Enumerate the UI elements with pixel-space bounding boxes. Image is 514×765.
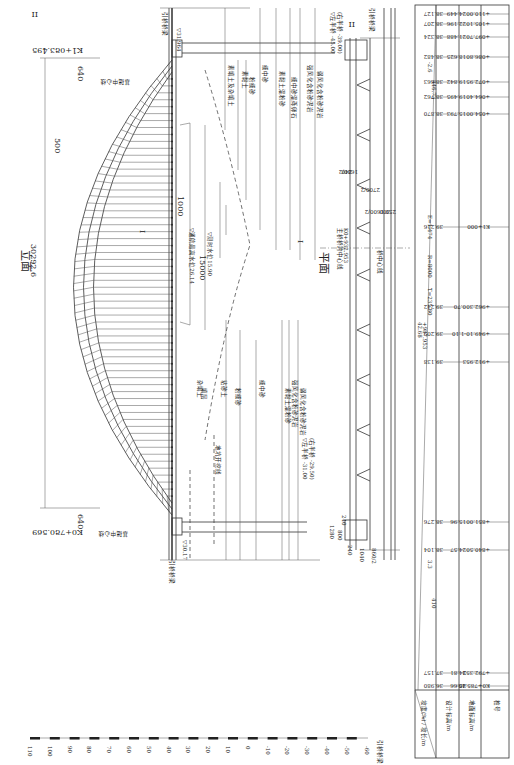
station-value: +072.95 xyxy=(466,79,490,85)
hanger-anchor xyxy=(171,279,173,281)
truss-diagonal xyxy=(112,144,126,148)
plan-section-mark-top: II xyxy=(349,20,355,29)
design-elevation: 38.482 xyxy=(424,54,443,60)
truss-diagonal xyxy=(162,489,163,504)
soil-label: 弱风化含粉砂泥岩 xyxy=(316,71,324,119)
bridge-drawing: 立面 30292.6 500 II K1+083.495 K0+780.569 … xyxy=(0,0,514,765)
soil-label: 粉细砂 xyxy=(234,388,242,406)
grade-left-length: 410 xyxy=(431,598,437,609)
scale-tick: -40 xyxy=(324,746,330,755)
scale-tick: 50 xyxy=(146,746,152,753)
design-elevation: 38.127 xyxy=(423,11,443,17)
plan-dimension: 800 xyxy=(337,530,343,541)
hanger-anchor xyxy=(171,328,173,330)
design-elevation: 38.207 xyxy=(423,21,443,27)
grade-right-length: 446.73 xyxy=(431,80,437,100)
station-value: +962.30 xyxy=(466,304,490,310)
truss-diagonal xyxy=(98,392,112,401)
hanger-anchor xyxy=(171,419,173,421)
station-value: +064.40 xyxy=(466,94,490,100)
hanger-anchor xyxy=(171,265,173,267)
hanger-anchor xyxy=(171,210,173,212)
rib-spacing-label: 500 xyxy=(53,138,62,153)
design-elevation: 37.157 xyxy=(423,670,443,676)
hanger-anchor xyxy=(171,113,173,115)
station-left: K0+780.569 xyxy=(32,528,83,537)
soil-label: 粘砂土 xyxy=(220,380,228,398)
station-right: K1+083.495 xyxy=(32,46,83,55)
hanger-anchor xyxy=(171,321,173,323)
plan-brace xyxy=(357,222,370,234)
ground-elevation: 0.70 xyxy=(453,304,466,310)
scale-tick: 60 xyxy=(126,746,132,753)
main-centerline-station: K0+932.953 xyxy=(343,228,349,263)
scale-tick: -60 xyxy=(364,746,370,755)
plan-brace xyxy=(357,424,370,436)
hanger-anchor xyxy=(171,391,173,393)
plan-section-mark: I xyxy=(296,240,305,243)
truss-diagonal xyxy=(87,364,103,372)
hanger-anchor xyxy=(171,92,173,94)
design-elevation: 39.138 xyxy=(423,359,443,365)
hanger-anchor xyxy=(171,252,173,254)
hanger-anchor xyxy=(171,293,173,295)
abutment-left xyxy=(172,518,182,535)
plan-brace xyxy=(357,79,370,91)
hanger-anchor xyxy=(171,127,173,129)
truss-diagonal xyxy=(85,210,104,211)
station-value: +851.00 xyxy=(466,519,490,525)
soil-label: 素黏土混粉砂 xyxy=(278,71,286,107)
scale-tick: -20 xyxy=(284,746,290,755)
truss-diagonal xyxy=(140,100,149,106)
truss-diagonal xyxy=(105,406,117,416)
plan-dimension: 1280 xyxy=(329,525,335,539)
hanger-anchor xyxy=(171,467,173,469)
station-value: +105.10 xyxy=(466,21,490,27)
hanger-anchor xyxy=(171,85,173,87)
level-right: ▽31.964 xyxy=(176,28,182,52)
truss-diagonal xyxy=(135,108,145,114)
table-row-label: 地面标高/m xyxy=(468,700,476,732)
truss-diagonal xyxy=(109,412,120,423)
soil-layers-left: 杂填土填层粘砂土粉细砂细中砂素黏土混粉砂强风化含粉砂泥岩弱风化含粉砂泥岩 xyxy=(196,380,307,436)
station-value: +912.953 xyxy=(462,359,490,365)
ground-elevation: 15.793 xyxy=(446,111,466,117)
section-mark-top: II xyxy=(32,10,38,19)
plan-brace xyxy=(357,324,370,336)
hanger-anchor xyxy=(171,439,173,441)
scale-tick: 100 xyxy=(47,746,53,757)
truss-diagonal xyxy=(145,468,148,482)
soil-label: 强风化含粉砂泥岩 xyxy=(291,380,299,428)
plan-brace xyxy=(357,374,370,386)
truss-diagonal xyxy=(81,343,99,350)
ground-elevation: 19.842 xyxy=(447,79,466,85)
plan-brace xyxy=(357,129,370,141)
plan-approach-right: 引桥桥梁 xyxy=(368,8,376,32)
hanger-anchor xyxy=(171,175,173,177)
hanger-anchor xyxy=(171,154,173,156)
soil-label: 粉细砂 xyxy=(248,77,256,95)
scale-tick: -10 xyxy=(265,746,271,755)
station-value: +840.50 xyxy=(466,547,490,553)
hanger-anchor xyxy=(171,474,173,476)
plan-dimension: 250 xyxy=(385,209,396,215)
hanger-anchor xyxy=(171,245,173,247)
truss-diagonal xyxy=(130,115,140,121)
truss-diagonal xyxy=(95,385,109,394)
hanger-anchor xyxy=(171,78,173,80)
station-value: +949.10 xyxy=(466,331,490,337)
truss-diagonal xyxy=(151,475,153,489)
hanger-anchor xyxy=(171,259,173,261)
plan-approach-left: 引桥桥梁 xyxy=(376,740,384,764)
plan-title: 平面 xyxy=(317,252,330,274)
ground-elevation: 24.449 xyxy=(446,11,466,17)
soil-label: 细中砂混砾卵石 xyxy=(290,77,298,119)
truss-diagonal xyxy=(121,130,133,135)
station-value: +792.353 xyxy=(462,670,490,676)
hanger-anchor xyxy=(171,238,173,240)
truss-diagonal xyxy=(140,461,144,474)
scale-tick: 70 xyxy=(106,746,112,753)
truss-diagonal xyxy=(135,454,141,467)
truss-diagonal xyxy=(105,159,120,162)
hanger-anchor xyxy=(171,425,173,427)
